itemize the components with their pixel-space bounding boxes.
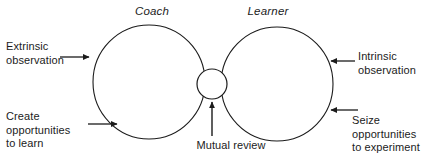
extrinsic-observation-label: Extrinsic observation xyxy=(6,40,84,67)
learner-circle xyxy=(221,27,333,141)
seize-opportunities-label: Seize opportunities to experiment xyxy=(352,114,427,155)
coach-label: Coach xyxy=(122,5,182,19)
mutual-review-label: Mutual review xyxy=(183,139,279,153)
mutual-review-circle xyxy=(197,69,227,99)
coach-circle xyxy=(93,25,205,139)
create-opportunities-label: Create opportunities to learn xyxy=(6,110,88,151)
intrinsic-observation-label: Intrinsic observation xyxy=(358,50,426,77)
learner-label: Learner xyxy=(233,5,303,19)
coaching-overlap-diagram: Coach Learner Extrinsic observation Crea… xyxy=(0,0,427,163)
